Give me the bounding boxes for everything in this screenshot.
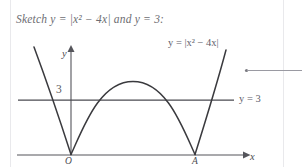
- annotation-leader-line: [245, 69, 302, 72]
- origin-label: O: [65, 156, 72, 166]
- curve-equation-label: y = |x² − 4x|: [168, 37, 219, 48]
- curve-left-branch: [34, 47, 71, 155]
- y-axis-label: y: [62, 48, 67, 59]
- page-title: Sketch y = |x² − 4x| and y = 3:: [16, 9, 256, 29]
- x-axis-label: x: [250, 151, 255, 162]
- graph-figure: y x 3 O A y = |x² − 4x| y = 3: [0, 28, 302, 167]
- curve-middle-hump: [71, 82, 195, 155]
- horizontal-line-equation-label: y = 3: [239, 93, 261, 104]
- x-axis: [17, 151, 251, 158]
- y-value-label-3: 3: [56, 83, 62, 95]
- y-axis-arrow-icon: [68, 45, 75, 52]
- worksheet-page: Sketch y = |x² − 4x| and y = 3:: [0, 0, 302, 167]
- curve-right-branch: [195, 50, 226, 155]
- root-label-a: A: [192, 156, 198, 166]
